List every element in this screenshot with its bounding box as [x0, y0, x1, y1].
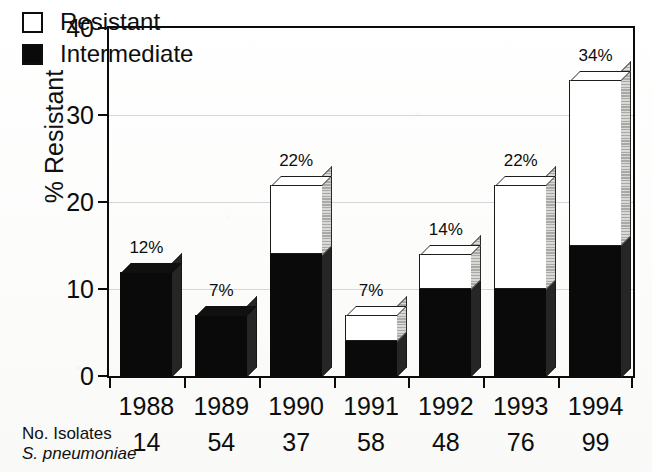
y-axis-tick-label: 10 — [66, 275, 94, 304]
isolate-count-value: 76 — [507, 428, 535, 457]
bar-segment-resistant-side — [621, 61, 631, 246]
legend-swatch-icon — [22, 12, 43, 33]
plot-area: 01020304012%7%22%7%14%22%34% — [107, 26, 635, 378]
x-axis-tick — [259, 376, 261, 388]
x-axis-year-label: 1994 — [568, 392, 624, 421]
bar-segment-intermediate[interactable] — [494, 289, 547, 376]
bar-group[interactable]: 22% — [270, 28, 323, 376]
legend-swatch-icon — [22, 44, 43, 65]
bar-segment-intermediate[interactable] — [569, 246, 622, 377]
bar-segment-intermediate[interactable] — [345, 341, 398, 376]
x-axis-year-label: 1991 — [343, 392, 399, 421]
isolates-row-label-line1: No. Isolates — [22, 424, 136, 444]
chart-legend: ResistantIntermediate — [22, 6, 193, 70]
bar-value-label: 14% — [429, 220, 463, 240]
isolate-count-value: 58 — [357, 428, 385, 457]
legend-item-label: Intermediate — [60, 40, 193, 68]
isolate-count-value: 54 — [207, 428, 235, 457]
bar-top-face — [495, 176, 556, 186]
y-axis-tick-label: 0 — [80, 362, 94, 391]
x-axis-year-label: 1992 — [418, 392, 474, 421]
y-axis-tick — [98, 201, 109, 203]
bar-top-face — [346, 306, 407, 316]
bar-value-label: 7% — [209, 281, 234, 301]
bar-group[interactable]: 34% — [569, 28, 622, 376]
x-axis-year-label: 1990 — [268, 392, 324, 421]
x-axis-tick — [631, 376, 633, 388]
isolates-row-label-line2: S. pneumoniae — [22, 444, 136, 464]
bar-group[interactable]: 12% — [120, 28, 173, 376]
bar-segment-intermediate[interactable] — [195, 315, 248, 376]
x-axis-tick — [408, 376, 410, 388]
bar-segment-intermediate[interactable] — [120, 272, 173, 376]
y-axis-tick — [98, 288, 109, 290]
isolate-count-value: 14 — [133, 428, 161, 457]
bar-segment-resistant[interactable] — [270, 185, 323, 255]
bar-top-face — [196, 306, 257, 316]
x-axis-year-label: 1988 — [119, 392, 175, 421]
bar-value-label: 12% — [129, 238, 163, 258]
bar-segment-resistant[interactable] — [419, 254, 472, 289]
bar-group[interactable]: 14% — [419, 28, 472, 376]
isolates-row-label: No. Isolates S. pneumoniae — [22, 424, 136, 464]
x-axis-tick — [334, 376, 336, 388]
legend-item-label: Resistant — [60, 8, 160, 36]
bar-segment-resistant[interactable] — [494, 185, 547, 289]
bar-segment-resistant[interactable] — [569, 80, 622, 245]
bar-segment-intermediate[interactable] — [270, 254, 323, 376]
y-axis-tick-label: 20 — [66, 188, 94, 217]
isolate-count-value: 48 — [432, 428, 460, 457]
bar-top-face — [570, 71, 631, 81]
bar-segment-intermediate-side — [322, 235, 332, 377]
x-axis-year-label: 1993 — [493, 392, 549, 421]
bar-group[interactable]: 7% — [345, 28, 398, 376]
bar-value-label: 22% — [279, 151, 313, 171]
bar-group[interactable]: 22% — [494, 28, 547, 376]
legend-item-intermediate[interactable]: Intermediate — [22, 38, 193, 70]
isolate-count-value: 37 — [282, 428, 310, 457]
bar-top-face — [271, 176, 332, 186]
x-axis-tick — [483, 376, 485, 388]
bar-value-label: 22% — [504, 151, 538, 171]
y-axis-tick — [98, 114, 109, 116]
bar-value-label: 34% — [579, 46, 613, 66]
bar-value-label: 7% — [359, 281, 384, 301]
bar-group[interactable]: 7% — [195, 28, 248, 376]
x-axis-year-label: 1989 — [193, 392, 249, 421]
y-axis-tick — [98, 375, 109, 377]
bar-segment-resistant[interactable] — [345, 315, 398, 341]
isolate-count-value: 99 — [582, 428, 610, 457]
x-axis-tick — [109, 376, 111, 388]
bar-top-face — [121, 263, 182, 273]
x-axis-tick — [184, 376, 186, 388]
x-axis-tick — [558, 376, 560, 388]
y-axis-tick-label: 30 — [66, 101, 94, 130]
chart-figure: % Resistant 01020304012%7%22%7%14%22%34%… — [0, 0, 652, 472]
bar-segment-intermediate[interactable] — [419, 289, 472, 376]
bar-top-face — [420, 245, 481, 255]
bar-segment-intermediate-side — [621, 227, 631, 378]
legend-item-resistant[interactable]: Resistant — [22, 6, 193, 38]
